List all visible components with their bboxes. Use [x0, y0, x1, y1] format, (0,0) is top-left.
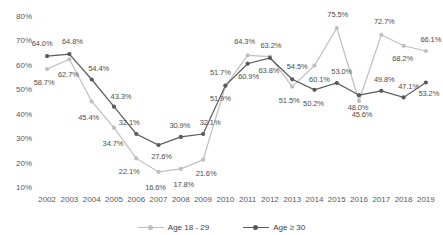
data-point[interactable] — [246, 53, 250, 57]
data-point[interactable] — [290, 77, 294, 81]
x-axis-tick: 2014 — [303, 195, 325, 204]
data-point[interactable] — [156, 143, 160, 147]
data-label: 34.7% — [101, 139, 125, 148]
x-axis-tick: 2010 — [214, 195, 236, 204]
data-point[interactable] — [223, 84, 227, 88]
data-label: 60.1% — [307, 75, 331, 84]
legend-swatch-icon — [243, 223, 269, 232]
legend-label: Age 18 - 29 — [168, 223, 209, 232]
data-point[interactable] — [67, 57, 71, 61]
data-label: 64.3% — [233, 37, 257, 46]
data-label: 43.3% — [109, 92, 133, 101]
data-point[interactable] — [156, 170, 160, 174]
x-axis-tick: 2005 — [103, 195, 125, 204]
data-point[interactable] — [201, 158, 205, 162]
data-label: 16.6% — [144, 183, 168, 192]
chart-legend: Age 18 - 29 Age ≥ 30 — [0, 223, 443, 232]
data-point[interactable] — [90, 77, 94, 81]
data-point[interactable] — [179, 135, 183, 139]
x-axis-tick: 2004 — [81, 195, 103, 204]
data-point[interactable] — [290, 85, 294, 89]
data-label: 32.1% — [198, 118, 222, 127]
x-axis-tick: 2018 — [393, 195, 415, 204]
y-axis-tick: 70% — [2, 36, 32, 45]
data-label: 53.2% — [417, 89, 441, 98]
data-label: 49.8% — [372, 75, 396, 84]
data-point[interactable] — [45, 67, 49, 71]
data-label: 51.5% — [277, 96, 301, 105]
data-label: 62.7% — [56, 70, 80, 79]
data-point[interactable] — [246, 62, 250, 66]
x-axis-tick: 2003 — [58, 195, 80, 204]
x-axis-tick: 2017 — [370, 195, 392, 204]
y-axis-tick: 30% — [2, 134, 32, 143]
data-label: 66.1% — [419, 35, 443, 44]
y-axis-tick: 10% — [2, 183, 32, 192]
x-axis-tick: 2007 — [148, 195, 170, 204]
data-label: 30.9% — [168, 121, 192, 130]
data-point[interactable] — [201, 132, 205, 136]
x-axis-tick: 2019 — [415, 195, 437, 204]
data-point[interactable] — [134, 132, 138, 136]
data-point[interactable] — [424, 80, 428, 84]
data-label: 51.7% — [208, 68, 232, 77]
x-axis-tick: 2016 — [348, 195, 370, 204]
data-point[interactable] — [312, 64, 316, 68]
y-axis-tick: 50% — [2, 85, 32, 94]
line-chart: 80%70%60%50%40%30%20%10% 200220032004200… — [0, 0, 443, 235]
data-point[interactable] — [90, 99, 94, 103]
x-axis-tick: 2011 — [237, 195, 259, 204]
data-point[interactable] — [402, 44, 406, 48]
data-label: 64.8% — [60, 37, 84, 46]
data-point[interactable] — [179, 167, 183, 171]
legend-label: Age ≥ 30 — [273, 223, 305, 232]
x-axis-tick: 2013 — [281, 195, 303, 204]
data-label: 60.9% — [237, 72, 261, 81]
legend-swatch-icon — [138, 223, 164, 232]
x-axis-tick: 2008 — [170, 195, 192, 204]
data-label: 50.2% — [301, 99, 325, 108]
data-point[interactable] — [112, 126, 116, 130]
data-point[interactable] — [45, 54, 49, 58]
data-point[interactable] — [379, 89, 383, 93]
x-axis-tick: 2015 — [326, 195, 348, 204]
legend-item-age-30-plus[interactable]: Age ≥ 30 — [243, 223, 305, 232]
series-line-0 — [47, 28, 426, 172]
y-axis-tick: 20% — [2, 159, 32, 168]
data-point[interactable] — [335, 26, 339, 30]
x-axis-tick: 2012 — [259, 195, 281, 204]
y-axis-tick: 60% — [2, 61, 32, 70]
data-label: 75.5% — [326, 10, 350, 19]
data-label: 32.1% — [117, 118, 141, 127]
data-point[interactable] — [312, 88, 316, 92]
data-label: 54.5% — [285, 62, 309, 71]
data-point[interactable] — [424, 49, 428, 53]
data-label: 54.4% — [87, 64, 111, 73]
data-point[interactable] — [134, 156, 138, 160]
data-label: 64.0% — [30, 39, 54, 48]
data-label: 72.7% — [372, 17, 396, 26]
data-point[interactable] — [402, 95, 406, 99]
y-axis-tick: 80% — [2, 12, 32, 21]
data-label: 22.1% — [117, 167, 141, 176]
data-label: 21.6% — [194, 169, 218, 178]
y-axis-tick: 40% — [2, 110, 32, 119]
data-label: 63.2% — [259, 41, 283, 50]
data-label: 17.8% — [172, 180, 196, 189]
data-label: 51.9% — [208, 94, 232, 103]
data-label: 53.0% — [330, 67, 354, 76]
data-label: 58.7% — [32, 78, 56, 87]
x-axis-tick: 2009 — [192, 195, 214, 204]
data-label: 27.6% — [150, 152, 174, 161]
data-point[interactable] — [357, 93, 361, 97]
x-axis-tick: 2006 — [125, 195, 147, 204]
data-point[interactable] — [268, 56, 272, 60]
data-point[interactable] — [379, 33, 383, 37]
data-point[interactable] — [335, 81, 339, 85]
data-point[interactable] — [112, 105, 116, 109]
legend-item-age-18-29[interactable]: Age 18 - 29 — [138, 223, 209, 232]
x-axis-tick: 2002 — [36, 195, 58, 204]
data-point[interactable] — [67, 52, 71, 56]
data-label: 68.2% — [391, 54, 415, 63]
data-label: 45.4% — [77, 113, 101, 122]
